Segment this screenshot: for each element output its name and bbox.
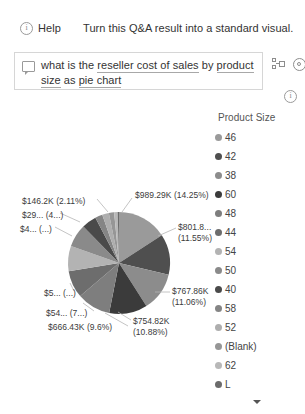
- legend-item-label: 62: [225, 360, 236, 371]
- pie-data-label: $754.82K(10.88%): [133, 316, 170, 338]
- legend-item[interactable]: 50: [215, 261, 305, 280]
- pie-data-label: $767.86K(11.06%): [172, 286, 209, 308]
- visual-info-icon[interactable]: [284, 89, 297, 107]
- question-segment-plain-3: as: [61, 74, 79, 86]
- legend-color-dot: [215, 134, 222, 141]
- question-segment-entity-1[interactable]: reseller cost of sales: [97, 59, 198, 73]
- help-label: Help: [38, 22, 61, 34]
- legend-title: Product Size: [218, 112, 305, 123]
- legend-item-label: 40: [225, 284, 236, 295]
- pie-data-label: $29... (4...): [22, 210, 63, 221]
- speech-bubble-icon: [22, 61, 35, 72]
- legend-item[interactable]: L: [215, 375, 305, 394]
- legend-item-label: 42: [225, 151, 236, 162]
- pie-slice[interactable]: [119, 212, 162, 263]
- pie-slice[interactable]: [83, 218, 119, 263]
- legend-item-label: 60: [225, 189, 236, 200]
- legend-color-dot: [215, 248, 222, 255]
- legend-color-dot: [215, 362, 222, 369]
- leader-line: [97, 199, 108, 212]
- legend: Product Size 4642386048445450405852(Blan…: [215, 112, 305, 394]
- pie-data-label: $5... (...): [44, 288, 76, 299]
- legend-item-label: (Blank): [225, 341, 257, 352]
- pie-slice[interactable]: [114, 212, 119, 263]
- legend-item[interactable]: 38: [215, 166, 305, 185]
- leader-line: [158, 228, 176, 236]
- leader-line: [118, 312, 131, 320]
- pie-slice[interactable]: [68, 246, 119, 271]
- gear-icon[interactable]: [293, 58, 305, 71]
- legend-item[interactable]: 46: [215, 128, 305, 147]
- legend-item[interactable]: 44: [215, 223, 305, 242]
- legend-color-dot: [215, 191, 222, 198]
- legend-item[interactable]: 54: [215, 242, 305, 261]
- legend-color-dot: [215, 324, 222, 331]
- legend-item[interactable]: (Blank): [215, 337, 305, 356]
- legend-color-dot: [215, 153, 222, 160]
- legend-item-label: 58: [225, 303, 236, 314]
- pie-slice[interactable]: [80, 263, 119, 313]
- legend-color-dot: [215, 229, 222, 236]
- header-row: Help Turn this Q&A result into a standar…: [0, 18, 305, 38]
- pie-slice-group: [68, 212, 170, 314]
- legend-item-label: 48: [225, 208, 236, 219]
- legend-color-dot: [215, 172, 222, 179]
- question-input-box[interactable]: what is the reseller cost of sales by pr…: [14, 52, 263, 90]
- question-segment-plain-1: what is the: [41, 59, 97, 71]
- legend-color-dot: [215, 286, 222, 293]
- legend-item[interactable]: 58: [215, 299, 305, 318]
- legend-item-label: 38: [225, 170, 236, 181]
- pie-slice[interactable]: [109, 263, 146, 314]
- question-toolbar: [272, 58, 305, 71]
- help-button[interactable]: Help: [20, 22, 61, 35]
- pie-data-label: $801.8...(11.55%): [178, 222, 212, 244]
- legend-item-label: 50: [225, 265, 236, 276]
- legend-item-label: 54: [225, 246, 236, 257]
- pie-slice[interactable]: [69, 263, 119, 296]
- question-segment-entity-3[interactable]: pie chart: [79, 74, 122, 88]
- legend-item[interactable]: 48: [215, 204, 305, 223]
- pie-slice[interactable]: [119, 235, 170, 274]
- legend-item-label: 46: [225, 132, 236, 143]
- legend-item[interactable]: 62: [215, 356, 305, 375]
- legend-item-label: L: [225, 379, 231, 390]
- legend-item-label: 44: [225, 227, 236, 238]
- conversion-hint-text: Turn this Q&A result into a standard vis…: [83, 22, 293, 34]
- legend-items: 4642386048445450405852(Blank)62L: [215, 128, 305, 394]
- pie-slice[interactable]: [118, 212, 119, 263]
- share-visual-icon[interactable]: [272, 58, 285, 70]
- legend-color-dot: [215, 381, 222, 388]
- question-text[interactable]: what is the reseller cost of sales by pr…: [41, 58, 256, 88]
- pie-data-label: $146.2K (2.11%): [22, 196, 85, 207]
- info-circle-icon: [20, 22, 33, 35]
- pie-slice[interactable]: [71, 227, 119, 263]
- legend-item-label: 52: [225, 322, 236, 333]
- legend-color-dot: [215, 267, 222, 274]
- pie-slice[interactable]: [109, 212, 119, 263]
- legend-color-dot: [215, 343, 222, 350]
- question-segment-plain-2: by: [199, 59, 217, 71]
- leader-line: [55, 227, 72, 236]
- pie-slice[interactable]: [95, 215, 119, 263]
- pie-slice[interactable]: [119, 263, 169, 306]
- pie-leader-lines: [55, 198, 176, 326]
- pie-data-label: $54... (7...): [46, 308, 87, 319]
- legend-item[interactable]: 60: [215, 185, 305, 204]
- pie-slice[interactable]: [102, 213, 119, 263]
- legend-item[interactable]: 52: [215, 318, 305, 337]
- legend-color-dot: [215, 210, 222, 217]
- pie-data-label: $989.29K (14.25%): [135, 190, 209, 201]
- legend-item[interactable]: 40: [215, 280, 305, 299]
- pie-data-label: $4... (...): [20, 224, 52, 235]
- pie-data-label: $666.43K (9.6%): [48, 322, 112, 333]
- legend-item[interactable]: 42: [215, 147, 305, 166]
- chevron-down-icon[interactable]: [253, 400, 261, 404]
- leader-line: [122, 198, 132, 212]
- legend-color-dot: [215, 305, 222, 312]
